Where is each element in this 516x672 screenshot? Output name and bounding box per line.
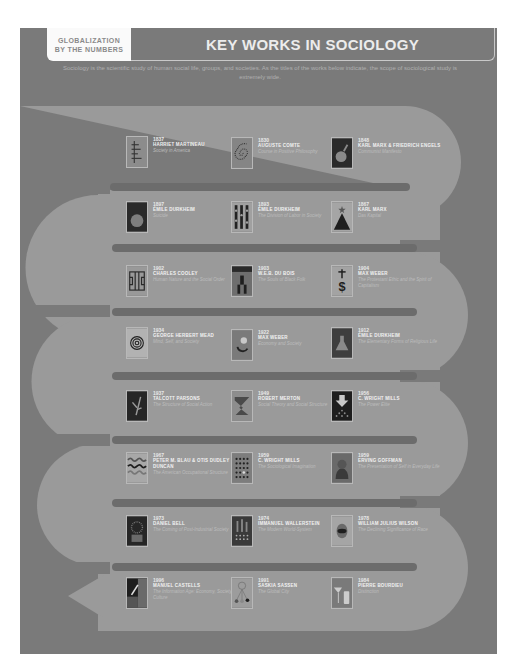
figure-icon — [231, 265, 253, 297]
work-item[interactable]: 1978William Julius WilsonThe Declining S… — [331, 515, 451, 565]
face-icon — [331, 452, 353, 484]
factory-icon — [126, 515, 148, 547]
work-item[interactable]: 1934George Herbert MeadMind, Self, and S… — [126, 327, 246, 377]
bomb-icon — [331, 137, 353, 169]
work-title: The Presentation of Self in Everyday Lif… — [358, 464, 450, 470]
pyramid-star-icon — [331, 201, 353, 233]
work-item[interactable]: 1973Daniel BellThe Coming of Post-Indust… — [126, 515, 246, 565]
flask-icon — [331, 327, 353, 359]
down-arrow-icon — [331, 390, 353, 422]
work-item[interactable]: $ 1904Max WeberThe Protestant Ethic and … — [331, 265, 451, 315]
work-item[interactable]: 1959Erving GoffmanThe Presentation of Se… — [331, 452, 451, 502]
pencil-icon — [126, 577, 148, 609]
circle-icon — [126, 201, 148, 233]
buildings-icon — [231, 515, 253, 547]
dot-grid-icon — [231, 452, 253, 484]
work-item[interactable]: 1848Karl Marx & Friedrich EngelsCommunis… — [331, 137, 451, 187]
work-title: The Declining Significance of Race — [358, 527, 450, 533]
work-item[interactable]: 1967Peter M. Blau & Otis Dudley DuncanTh… — [126, 452, 246, 502]
work-title: Das Kapital — [358, 213, 450, 219]
work-item[interactable]: 1912Émile DurkheimThe Elementary Forms o… — [331, 327, 451, 377]
cross-dollar-icon: $ — [331, 265, 353, 297]
work-item[interactable]: 1837Harriet MartineauSociety in America — [126, 136, 246, 186]
work-title: Communist Manifesto — [358, 149, 450, 155]
eye-icon — [331, 515, 353, 547]
glass-bottle-icon — [331, 577, 353, 609]
work-item[interactable]: 1956C. Wright MillsThe Power Elite — [331, 390, 451, 440]
work-item[interactable]: 1996Manuel CastellsThe Information Age: … — [126, 577, 246, 627]
work-title: The Protestant Ethic and the Spirit of C… — [358, 277, 450, 289]
maze-icon — [126, 265, 148, 297]
work-title: The Elementary Forms of Religious Life — [358, 339, 450, 345]
spiral-icon — [231, 137, 253, 169]
target-icon — [126, 327, 148, 359]
plant-icon — [126, 390, 148, 422]
work-item[interactable]: 1984Pierre BourdieuDistinction — [331, 577, 451, 627]
zigzag-icon — [231, 390, 253, 422]
circular-arrows-icon — [231, 329, 253, 361]
people-grid-icon — [231, 201, 253, 233]
work-item[interactable]: 1867Karl MarxDas Kapital — [331, 201, 451, 251]
work-item[interactable]: 1902Charles CooleyHuman Nature and the S… — [126, 265, 246, 315]
waves-icon — [126, 452, 148, 484]
work-title: The Power Elite — [358, 402, 450, 408]
network-icon — [231, 577, 253, 609]
work-item[interactable]: 1897Émile DurkheimSuicide — [126, 201, 246, 251]
vertical-line-chart-icon — [126, 136, 148, 168]
svg-text:$: $ — [338, 279, 345, 294]
work-item[interactable]: 1937Talcott ParsonsThe Structure of Soci… — [126, 390, 246, 440]
work-title: Distinction — [358, 589, 450, 595]
